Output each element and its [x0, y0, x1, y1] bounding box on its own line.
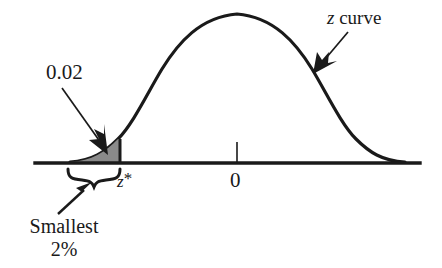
tail-brace-icon — [68, 169, 120, 187]
z-star-label: z* — [117, 170, 132, 190]
z-curve-label: z curve — [327, 8, 381, 27]
z-star-variable: z — [117, 172, 124, 191]
smallest-percent-label: Smallest2% — [12, 216, 116, 259]
zero-label: 0 — [230, 170, 241, 191]
z-curve-word-text: curve — [339, 7, 381, 28]
z-star-asterisk: * — [124, 169, 133, 188]
curve-arrow-icon — [313, 52, 337, 74]
smallest-line-1: Smallest — [30, 215, 99, 237]
smallest-line-2: 2% — [12, 239, 116, 259]
probability-leader-line — [62, 88, 101, 143]
probability-label: 0.02 — [46, 62, 83, 83]
